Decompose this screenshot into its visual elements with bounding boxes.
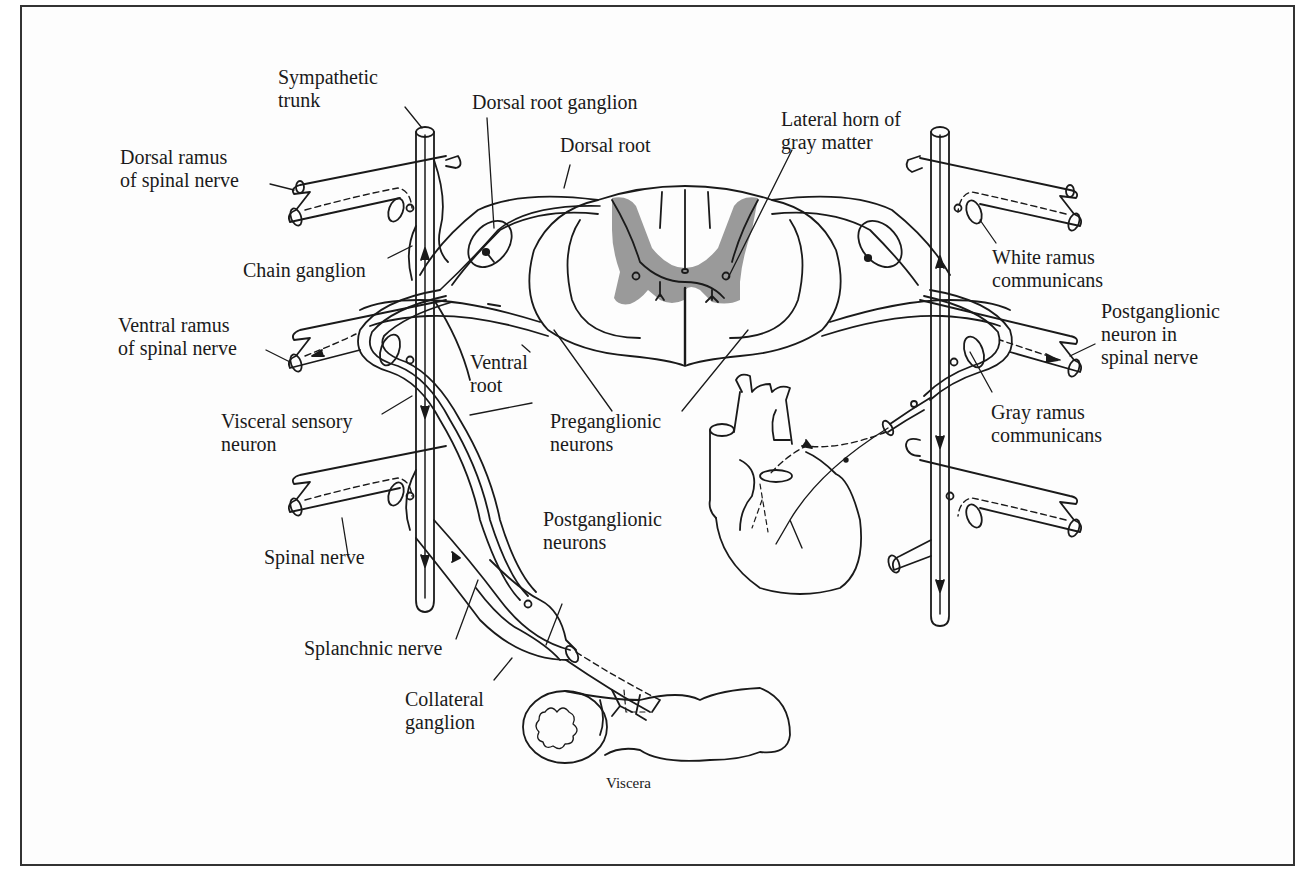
label-ventral-ramus: Ventral ramus of spinal nerve — [118, 314, 237, 360]
label-spinal-nerve: Spinal nerve — [264, 546, 365, 569]
label-white-ramus: White ramus communicans — [992, 246, 1103, 292]
dorsal-root-ganglion-right — [849, 213, 910, 276]
roots-right — [772, 197, 1010, 336]
label-sympathetic-trunk: Sympathetic trunk — [278, 66, 378, 112]
leader-lines — [266, 107, 1095, 680]
heart — [710, 375, 888, 594]
sympathetic-trunk-right — [881, 127, 1082, 626]
label-visceral-sensory-neuron: Visceral sensory neuron — [221, 410, 353, 456]
label-chain-ganglion: Chain ganglion — [243, 259, 366, 282]
label-splanchnic-nerve: Splanchnic nerve — [304, 637, 442, 660]
roots-left — [360, 197, 600, 336]
label-dorsal-ramus: Dorsal ramus of spinal nerve — [120, 146, 239, 192]
label-gray-ramus: Gray ramus communicans — [991, 401, 1102, 447]
label-dorsal-root: Dorsal root — [560, 134, 651, 157]
label-ventral-root: Ventral root — [470, 351, 528, 397]
label-postganglionic-neurons: Postganglionic neurons — [543, 508, 662, 554]
label-collateral-ganglion: Collateral ganglion — [405, 688, 484, 734]
viscera — [523, 688, 790, 763]
collateral-ganglion — [476, 560, 660, 712]
label-dorsal-root-ganglion: Dorsal root ganglion — [472, 91, 638, 114]
label-postganglionic-neuron-spinal-nerve: Postganglionic neuron in spinal nerve — [1101, 300, 1220, 369]
label-lateral-horn: Lateral horn of gray matter — [781, 108, 901, 154]
label-viscera: Viscera — [606, 772, 651, 795]
label-preganglionic-neurons: Preganglionic neurons — [550, 410, 661, 456]
